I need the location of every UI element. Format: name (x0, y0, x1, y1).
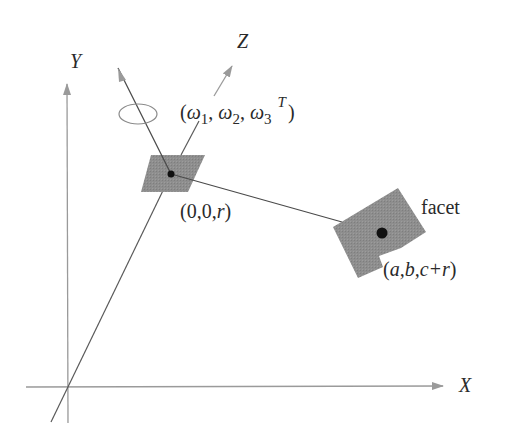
rotation-axis-arrowhead (118, 68, 126, 82)
z-line (51, 174, 171, 422)
y-axis (67, 84, 68, 423)
diagram-canvas: Y Z X (ω1, ω2, ω3T) (0,0,r) facet (a,b,c… (0, 0, 505, 438)
x-axis-label: X (459, 374, 471, 397)
rotation-axis (118, 68, 171, 174)
x-axis (26, 386, 443, 387)
patch-center-dot (168, 171, 175, 178)
y-axis-label: Y (70, 50, 81, 73)
facet-coord-label: (a,b,c+r) (383, 258, 457, 281)
z-axis-arrow (214, 66, 232, 96)
facet-label: facet (421, 196, 460, 219)
rotation-vector-label: (ω1, ω2, ω3T) (180, 98, 295, 128)
z-axis-label: Z (237, 30, 248, 53)
small-patch-coord-label: (0,0,r) (180, 200, 231, 223)
facet-center-dot (377, 228, 388, 239)
